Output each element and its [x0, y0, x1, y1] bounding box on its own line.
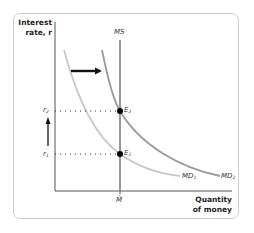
md2-label: MD2 [221, 172, 235, 182]
r2-tick-label: r2 [43, 106, 49, 116]
x-axis-title: Quantity of money [190, 195, 232, 215]
mbar-tick-label: M̄ [116, 196, 122, 204]
y-axis-title: Interest rate, r [16, 18, 52, 38]
e2-label: E2 [124, 106, 131, 116]
equilibrium-point-e1 [117, 151, 123, 157]
rate-rise-arrow-icon [46, 117, 51, 146]
r1-tick-label: r1 [43, 150, 49, 160]
e1-label: E1 [124, 149, 131, 159]
ms-label: MS [114, 28, 124, 36]
md1-label: MD1 [182, 172, 196, 182]
shift-right-arrow-icon [71, 68, 102, 75]
equilibrium-point-e2 [117, 108, 123, 114]
